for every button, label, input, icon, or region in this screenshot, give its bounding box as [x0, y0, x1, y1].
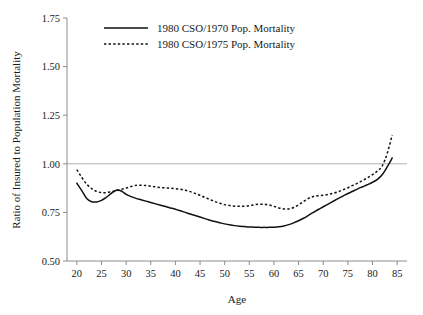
x-tick-label: 75	[343, 268, 354, 279]
x-tick-label: 40	[170, 268, 181, 279]
chart-legend: 1980 CSO/1970 Pop. Mortality1980 CSO/197…	[104, 22, 296, 50]
x-tick-label: 35	[146, 268, 157, 279]
x-tick-label: 55	[244, 268, 255, 279]
x-tick-label: 45	[195, 268, 206, 279]
chart-figure: 0.500.751.001.251.501.75 202530354045505…	[0, 0, 423, 315]
data-series-line	[77, 158, 392, 227]
y-tick-label: 0.50	[42, 256, 60, 267]
x-tick-label: 60	[269, 268, 280, 279]
legend-label: 1980 CSO/1970 Pop. Mortality	[157, 22, 296, 34]
x-tick-label: 85	[392, 268, 403, 279]
x-tick-label: 50	[219, 268, 230, 279]
x-tick-label: 20	[72, 268, 83, 279]
y-axis-title: Ratio of Insured to Population Mortality	[10, 51, 22, 229]
chart-plot-area: 0.500.751.001.251.501.75 202530354045505…	[0, 0, 423, 315]
x-tick-label: 25	[96, 268, 107, 279]
y-tick-label: 1.25	[42, 110, 60, 121]
x-tick-label: 30	[121, 268, 132, 279]
x-tick-label: 70	[318, 268, 329, 279]
data-series-line	[77, 135, 392, 209]
x-tick-label: 65	[293, 268, 304, 279]
y-tick-label: 1.75	[42, 13, 60, 24]
y-tick-label: 0.75	[42, 207, 60, 218]
y-tick-label: 1.50	[42, 61, 60, 72]
x-axis: 2025303540455055606570758085	[67, 261, 407, 279]
x-tick-label: 80	[367, 268, 378, 279]
y-axis: 0.500.751.001.251.501.75	[42, 13, 67, 267]
legend-label: 1980 CSO/1975 Pop. Mortality	[157, 38, 296, 50]
y-tick-label: 1.00	[42, 159, 60, 170]
data-series-group	[77, 135, 392, 227]
x-axis-title: Age	[228, 293, 246, 305]
